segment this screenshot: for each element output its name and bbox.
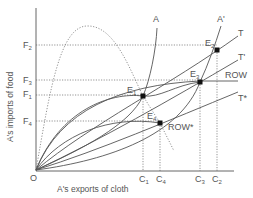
- tick-c2: C2: [212, 174, 223, 185]
- point-e3: [198, 80, 203, 85]
- label-e3: E3: [190, 69, 200, 80]
- tick-f2: F2: [23, 40, 33, 51]
- offer-curve-diagram: E1 E2 E3 E4 A A' T T' ROW T* ROW* F2 F3 …: [0, 0, 253, 198]
- label-row: ROW: [225, 70, 248, 80]
- label-e4: E4: [147, 111, 157, 122]
- tick-c1: C1: [139, 174, 150, 185]
- x-axis-title: A's exports of cloth: [57, 184, 129, 194]
- line-t-star: [36, 92, 238, 170]
- tick-c3: C3: [195, 174, 206, 185]
- label-t-star: T*: [238, 93, 247, 103]
- tick-f3: F3: [23, 75, 33, 86]
- line-t-prime: [36, 60, 238, 170]
- point-e1: [141, 94, 146, 99]
- y-axis-title: A's imports of food: [5, 72, 15, 142]
- origin-label: O: [30, 173, 37, 183]
- label-a-prime: A': [217, 14, 225, 24]
- tick-f1: F1: [23, 89, 33, 100]
- line-t: [36, 36, 238, 170]
- curve-row-star: [36, 121, 160, 170]
- label-t: T: [238, 28, 244, 38]
- tick-f4: F4: [23, 116, 33, 127]
- point-e2: [215, 48, 220, 53]
- point-e4: [158, 121, 163, 126]
- label-a: A: [153, 14, 159, 24]
- tick-c4: C4: [156, 174, 167, 185]
- label-t-prime: T': [238, 52, 245, 62]
- curve-row: [36, 81, 238, 170]
- label-row-star: ROW*: [168, 122, 194, 132]
- label-e2: E2: [205, 38, 215, 49]
- label-e1: E1: [127, 85, 137, 96]
